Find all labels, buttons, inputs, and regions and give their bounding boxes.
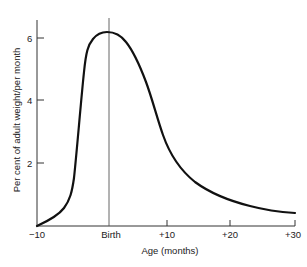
x-tick-label: Birth xyxy=(101,229,121,240)
y-tick-label: 4 xyxy=(27,95,32,106)
y-axis-label: Per cent of adult weight/per month xyxy=(11,48,22,193)
growth-rate-chart: 6 4 2 −10 Birth +10 +20 +30 Age (months)… xyxy=(0,0,307,267)
y-tick-label: 6 xyxy=(27,33,32,44)
x-axis-label: Age (months) xyxy=(141,245,198,256)
y-ticks: 6 4 2 xyxy=(27,33,44,169)
x-tick-label: +10 xyxy=(159,229,175,240)
x-tick-label: +20 xyxy=(222,229,238,240)
growth-curve xyxy=(37,32,295,226)
x-ticks: −10 Birth +10 +20 +30 xyxy=(29,220,301,240)
x-tick-label: +30 xyxy=(285,229,301,240)
y-tick-label: 2 xyxy=(27,158,32,169)
x-tick-label: −10 xyxy=(29,229,45,240)
